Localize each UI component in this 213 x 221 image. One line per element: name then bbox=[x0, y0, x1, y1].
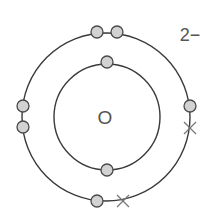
electron-shell-svg: O 2− bbox=[0, 0, 213, 221]
oxide-ion-diagram: O 2− bbox=[0, 0, 213, 221]
electron-dot-icon bbox=[91, 195, 103, 207]
electron-dot-icon bbox=[17, 121, 29, 133]
nucleus-symbol: O bbox=[98, 107, 113, 128]
electron-dot-icon bbox=[17, 100, 29, 112]
electron-cross-icon bbox=[117, 195, 129, 207]
electron-dot-icon bbox=[111, 26, 123, 38]
electron-dot-icon bbox=[101, 164, 113, 176]
ion-charge: 2− bbox=[180, 25, 201, 45]
electron-dot-icon bbox=[91, 26, 103, 38]
electron-dot-icon bbox=[101, 56, 113, 68]
electron-dot-icon bbox=[184, 100, 196, 112]
